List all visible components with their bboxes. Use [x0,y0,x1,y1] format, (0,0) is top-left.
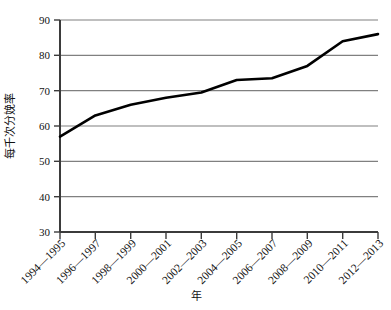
y-axis-tick-labels: 90 80 70 60 50 40 30 [39,14,51,238]
y-tick-label-70: 70 [39,85,51,97]
y-tick-label-90: 90 [39,14,51,26]
chart-canvas: 90 80 70 60 50 40 30 1994—1995 1996—1997… [0,0,391,310]
y-tick-label-40: 40 [39,191,51,203]
y-axis-title: 每千次分娩率 [3,93,17,159]
y-tick-label-50: 50 [39,155,51,167]
x-axis-title: 年 [191,289,202,303]
y-tick-label-30: 30 [39,226,51,238]
x-axis-ticks [60,232,378,239]
y-tick-label-60: 60 [39,120,51,132]
line-chart: 90 80 70 60 50 40 30 1994—1995 1996—1997… [0,0,391,310]
x-axis-tick-labels: 1994—1995 1996—1997 1998—1999 2000—2001 … [18,237,385,286]
y-tick-label-80: 80 [39,49,51,61]
